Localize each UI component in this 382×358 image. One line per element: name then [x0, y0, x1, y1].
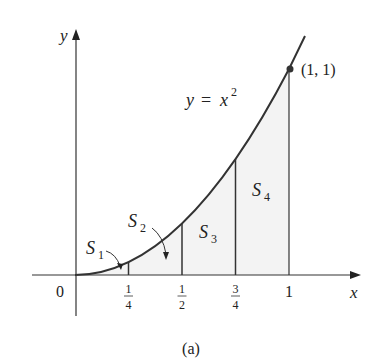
- svg-text:1: 1: [126, 282, 132, 296]
- svg-text:2: 2: [140, 221, 146, 235]
- svg-text:4: 4: [233, 298, 239, 312]
- figure-caption: (a): [182, 340, 200, 358]
- svg-text:S: S: [199, 222, 208, 242]
- svg-text:S: S: [252, 180, 261, 200]
- point-label: (1, 1): [301, 61, 336, 79]
- strip-label-s2: S 2: [128, 211, 146, 235]
- riemann-area-figure: y x 0 1 4 1 2 3 4 1 y = x 2 (1, 1): [0, 0, 382, 358]
- svg-text:2: 2: [231, 85, 237, 99]
- svg-text:x: x: [219, 90, 228, 110]
- tick-one: 1: [285, 283, 293, 300]
- function-label: y = x 2: [184, 85, 237, 110]
- tick-quarter: 1 4: [124, 282, 133, 312]
- svg-text:1: 1: [179, 282, 185, 296]
- svg-text:4: 4: [126, 298, 132, 312]
- x-axis-arrow-icon: [350, 271, 361, 279]
- tick-half: 1 2: [178, 282, 187, 312]
- svg-text:=: =: [201, 90, 211, 110]
- y-axis-arrow-icon: [72, 29, 80, 40]
- svg-text:S: S: [128, 211, 137, 231]
- svg-text:3: 3: [233, 282, 239, 296]
- svg-text:3: 3: [211, 232, 217, 246]
- svg-text:y: y: [184, 90, 194, 110]
- tick-three-quarter: 3 4: [231, 282, 240, 312]
- svg-text:2: 2: [179, 298, 185, 312]
- point-one-one: [287, 66, 294, 73]
- origin-label: 0: [56, 283, 64, 300]
- x-axis-label: x: [349, 283, 358, 302]
- svg-text:1: 1: [98, 248, 104, 262]
- strip-label-s1: S 1: [86, 238, 104, 262]
- svg-text:S: S: [86, 238, 95, 258]
- y-axis-label: y: [58, 26, 68, 45]
- svg-text:4: 4: [264, 190, 270, 204]
